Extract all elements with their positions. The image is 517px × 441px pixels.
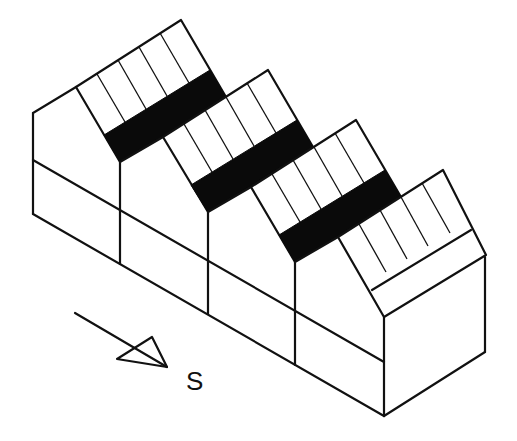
building-drawing: S [0,0,517,441]
diagram-canvas: S [0,0,517,441]
direction-label: S [186,366,203,396]
south-arrow-icon [75,313,167,367]
